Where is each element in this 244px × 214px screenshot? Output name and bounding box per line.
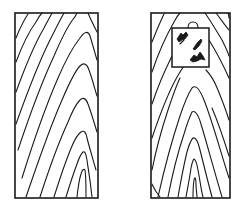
wood-grain-figure: Wood board with plain grain (no defect) … bbox=[0, 0, 244, 214]
left-board bbox=[15, 13, 98, 198]
figure-canvas bbox=[0, 0, 244, 214]
patch-top-loop bbox=[188, 22, 198, 28]
defect-patch bbox=[172, 22, 209, 67]
